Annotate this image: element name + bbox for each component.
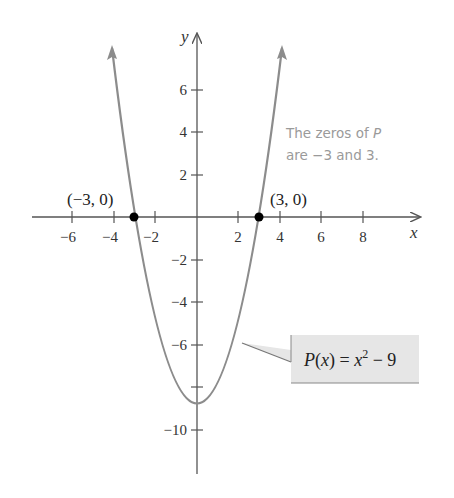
function-callout: P(x) = x2 − 9: [242, 335, 419, 383]
zeros-note-line1: The zeros of P: [285, 125, 382, 141]
y-tick-label: −2: [171, 252, 187, 268]
x-tick-label: −6: [60, 229, 76, 245]
x-tick-label: 2: [234, 229, 242, 245]
function-formula: P(x) = x2 − 9: [303, 347, 396, 371]
point-label-left: (−3, 0): [67, 190, 113, 209]
y-tick-label: −10: [164, 422, 187, 438]
y-tick-label: −6: [171, 337, 187, 353]
x-tick-label: 8: [359, 229, 367, 245]
x-axis-label: x: [409, 223, 418, 242]
curve-arrow-right-icon: [277, 45, 287, 60]
y-tick-labels: 6 4 2 −2 −4 −6 −10: [164, 82, 188, 438]
zero-point-right: [255, 213, 264, 222]
y-tick-label: 4: [180, 124, 188, 140]
y-tick-label: −4: [171, 294, 187, 310]
x-tick-label: −2: [143, 229, 159, 245]
x-tick-label: 4: [276, 229, 284, 245]
zeros-note-line2: are −3 and 3.: [286, 147, 379, 163]
curve-arrow-left-icon: [107, 45, 117, 60]
y-tick-label: 6: [180, 82, 188, 98]
zero-point-left: [130, 213, 139, 222]
chart-canvas: −6 −4 −2 2 4 6 8 6 4 2 −2 −4 −6 −10 x y …: [0, 0, 454, 498]
x-tick-labels: −6 −4 −2 2 4 6 8: [60, 229, 367, 245]
y-axis-label: y: [179, 27, 189, 46]
y-tick-label: 2: [180, 167, 188, 183]
x-tick-label: −4: [102, 229, 118, 245]
x-tick-label: 6: [317, 229, 325, 245]
point-label-right: (3, 0): [270, 190, 307, 209]
